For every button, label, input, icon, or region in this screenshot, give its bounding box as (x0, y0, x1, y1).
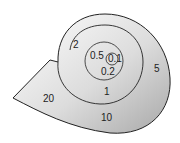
label-1: 1 (104, 87, 110, 97)
label-0.2: 0.2 (101, 67, 115, 77)
label-10: 10 (101, 113, 112, 123)
label-0.1: 0.1 (108, 54, 122, 64)
spiral-outer-shell (13, 14, 170, 133)
label-2: 2 (73, 40, 79, 50)
spiral-diagram (0, 0, 180, 143)
label-5: 5 (154, 64, 160, 74)
label-20: 20 (43, 94, 54, 104)
label-0.5: 0.5 (90, 51, 104, 61)
